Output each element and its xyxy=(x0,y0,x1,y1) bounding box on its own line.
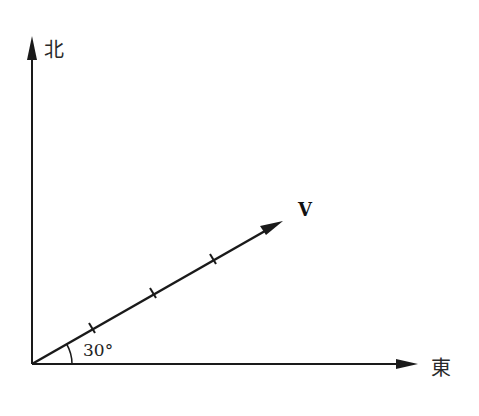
east-label: 東 xyxy=(431,352,451,381)
vector-diagram xyxy=(0,0,479,416)
angle-arc xyxy=(67,344,72,364)
vector-v xyxy=(32,221,283,364)
angle-label: 30° xyxy=(83,340,113,360)
vector-label: V xyxy=(298,199,312,220)
north-arrowhead-icon xyxy=(27,36,37,60)
north-label: 北 xyxy=(44,34,64,63)
north-axis xyxy=(27,36,37,364)
east-arrowhead-icon xyxy=(396,359,418,369)
east-axis xyxy=(32,359,418,369)
